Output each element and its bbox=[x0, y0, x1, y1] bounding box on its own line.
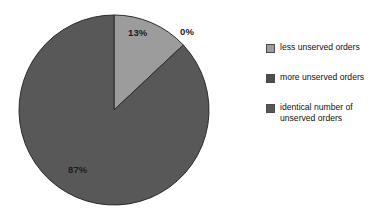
legend-item-label: more unserved orders bbox=[280, 72, 364, 83]
legend-swatch-icon bbox=[266, 44, 275, 53]
legend-item-more[interactable]: more unserved orders bbox=[266, 72, 384, 83]
legend-item-identical[interactable]: identical number of unserved orders bbox=[266, 102, 384, 123]
legend-item-label: less unserved orders bbox=[280, 42, 360, 53]
pie-slice-label-more: 0% bbox=[180, 26, 194, 37]
pie-slice-group bbox=[19, 15, 209, 205]
chart-legend: less unserved orders more unserved order… bbox=[266, 42, 384, 142]
legend-swatch-icon bbox=[266, 104, 275, 113]
legend-item-label: identical number of unserved orders bbox=[280, 102, 353, 123]
legend-item-less[interactable]: less unserved orders bbox=[266, 42, 384, 53]
pie-slice-label-less: 13% bbox=[128, 27, 147, 38]
legend-swatch-icon bbox=[266, 74, 275, 83]
pie-plot-area: 13% 0% 87% bbox=[0, 0, 240, 216]
pie-chart-figure: 13% 0% 87% less unserved orders more uns… bbox=[0, 0, 386, 216]
pie-slice-label-identical: 87% bbox=[68, 164, 87, 175]
pie-svg bbox=[0, 0, 240, 216]
